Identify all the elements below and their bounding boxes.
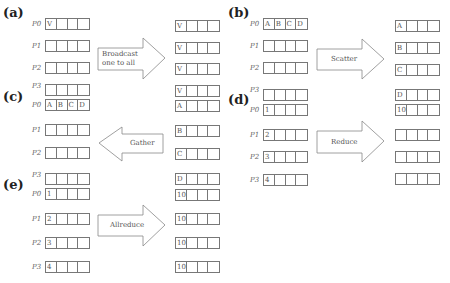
buffer-cell — [275, 175, 286, 185]
buffer-row: D — [395, 89, 440, 101]
buffer-cell: 10 — [176, 190, 187, 200]
buffer-row: 3 — [45, 237, 90, 249]
buffer-cell — [57, 214, 68, 224]
buffer-row: 1 — [45, 188, 90, 200]
buffer-row — [263, 62, 308, 74]
buffer-cell — [198, 86, 209, 96]
buffer-cell — [198, 43, 209, 53]
buffer-cell — [407, 65, 418, 75]
buffer-cell — [46, 174, 57, 184]
buffer-cell — [428, 130, 439, 140]
buffer-row — [45, 84, 90, 96]
buffer-cell — [208, 174, 219, 184]
buffer-cell — [407, 21, 418, 31]
buffer-cell — [428, 174, 439, 184]
buffer-cell: C — [68, 100, 79, 110]
buffer-cell: A — [176, 101, 187, 111]
proc-label: P3 — [32, 263, 41, 271]
buffer-cell — [68, 189, 79, 199]
buffer-cell — [286, 105, 297, 115]
buffer-cell — [428, 65, 439, 75]
buffer-cell — [407, 130, 418, 140]
buffer-row — [45, 173, 90, 185]
buffer-cell — [68, 214, 79, 224]
buffer-cell: D — [176, 174, 187, 184]
buffer-cell: 3 — [264, 152, 275, 162]
buffer-row: A — [395, 20, 440, 32]
buffer-cell: 10 — [396, 105, 407, 115]
buffer-cell: V — [176, 86, 187, 96]
buffer-cell — [418, 105, 429, 115]
buffer-cell — [57, 19, 68, 29]
buffer-row: A — [175, 100, 220, 112]
buffer-cell: A — [396, 21, 407, 31]
buffer-row: V — [175, 85, 220, 97]
buffer-cell — [187, 101, 198, 111]
buffer-cell — [286, 90, 297, 100]
buffer-cell: 10 — [176, 238, 187, 248]
proc-label: P1 — [32, 215, 41, 223]
buffer-row: B — [175, 125, 220, 137]
buffer-row: V — [175, 20, 220, 32]
buffer-row — [45, 62, 90, 74]
allreduce-arrow: Allreduce — [98, 205, 168, 247]
proc-label: P2 — [32, 239, 41, 247]
buffer-cell — [428, 21, 439, 31]
buffer-cell — [275, 152, 286, 162]
buffer-cell: 4 — [264, 175, 275, 185]
buffer-cell: C — [396, 65, 407, 75]
buffer-cell: 2 — [46, 214, 57, 224]
buffer-cell — [396, 152, 407, 162]
buffer-cell — [187, 149, 198, 159]
buffer-cell — [264, 41, 275, 51]
proc-label: P1 — [250, 131, 259, 139]
buffer-cell — [187, 21, 198, 31]
buffer-cell — [396, 130, 407, 140]
buffer-cell: A — [264, 19, 275, 29]
buffer-cell — [57, 148, 68, 158]
buffer-row — [395, 151, 440, 163]
buffer-cell — [57, 238, 68, 248]
buffer-row — [45, 147, 90, 159]
buffer-cell: 4 — [46, 262, 57, 272]
reduce-arrow: Reduce — [317, 121, 387, 163]
buffer-cell — [208, 64, 219, 74]
buffer-cell — [78, 63, 89, 73]
buffer-cell — [286, 63, 297, 73]
proc-label: P0 — [32, 101, 41, 109]
buffer-row — [263, 40, 308, 52]
buffer-row: 4 — [263, 174, 308, 186]
buffer-cell: 1 — [46, 189, 57, 199]
buffer-row: V — [175, 42, 220, 54]
buffer-cell: D — [296, 19, 307, 29]
proc-label: P0 — [32, 190, 41, 198]
buffer-cell — [78, 189, 89, 199]
buffer-cell — [428, 105, 439, 115]
mpi-collectives-diagram: (a) (b) (c) (d) (e) P0 V P1 P2 Broadcast… — [0, 0, 450, 283]
buffer-cell — [407, 90, 418, 100]
buffer-cell — [407, 174, 418, 184]
buffer-cell: 3 — [46, 238, 57, 248]
buffer-cell: A — [46, 100, 57, 110]
buffer-cell — [428, 90, 439, 100]
buffer-cell — [187, 43, 198, 53]
buffer-cell — [198, 126, 209, 136]
proc-label: P3 — [32, 171, 41, 179]
buffer-cell — [68, 19, 79, 29]
buffer-cell — [187, 238, 198, 248]
buffer-cell: V — [176, 21, 187, 31]
gather-label: Gather — [130, 139, 155, 148]
proc-label: P1 — [32, 126, 41, 134]
buffer-cell — [68, 174, 79, 184]
buffer-cell — [418, 43, 429, 53]
buffer-row: V — [45, 18, 90, 30]
buffer-cell: 1 — [264, 105, 275, 115]
buffer-cell — [46, 148, 57, 158]
buffer-row: 3 — [263, 151, 308, 163]
buffer-cell — [46, 85, 57, 95]
buffer-cell — [286, 152, 297, 162]
buffer-cell — [428, 152, 439, 162]
buffer-cell: 10 — [176, 262, 187, 272]
buffer-cell — [286, 41, 297, 51]
buffer-cell: B — [275, 19, 286, 29]
